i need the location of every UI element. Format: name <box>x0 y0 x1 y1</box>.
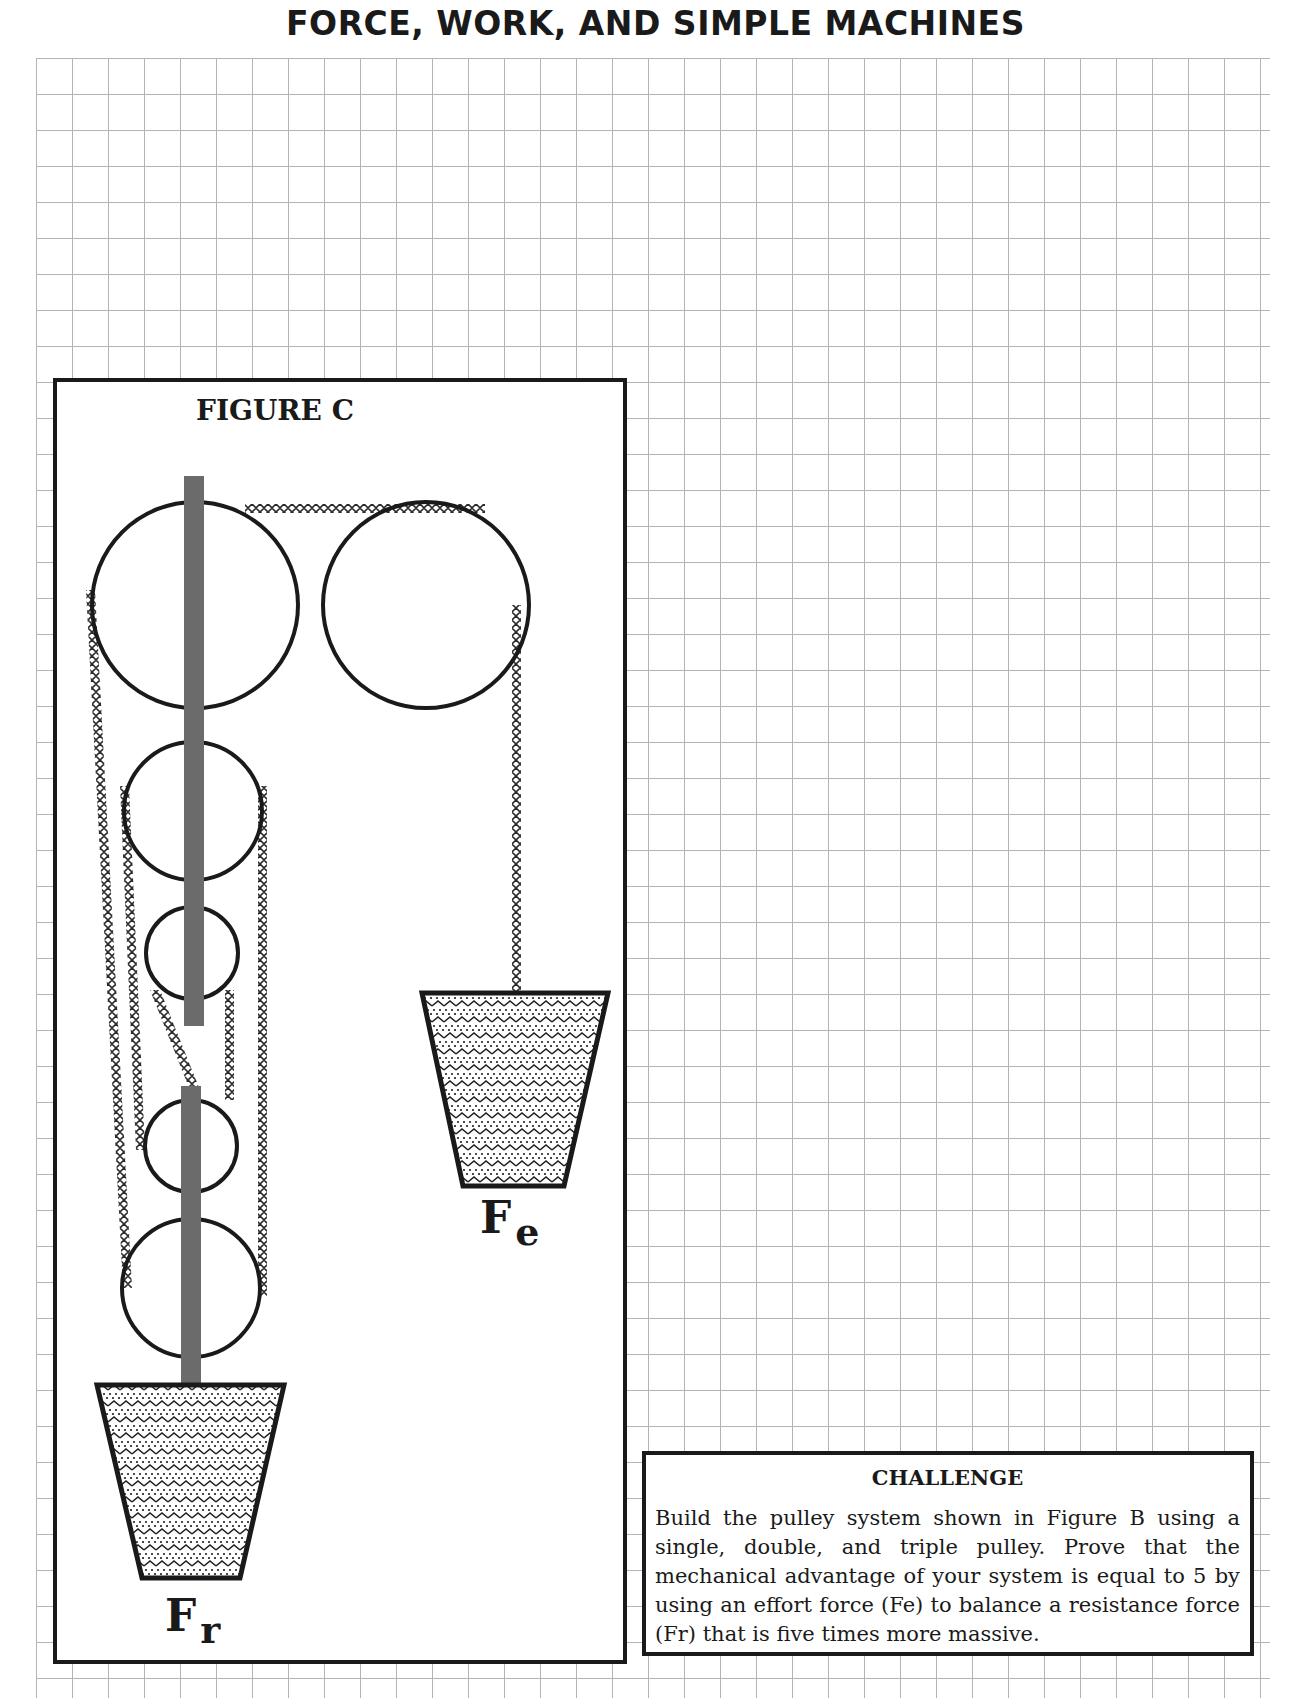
fixed-axle-bar <box>184 476 204 1026</box>
resistance-force-label: Fr <box>165 1590 220 1641</box>
resistance-force-main: F <box>165 1590 196 1641</box>
movable-axle-bar <box>181 1086 201 1386</box>
challenge-title: CHALLENGE <box>655 1465 1240 1490</box>
rope-right-inner <box>225 990 234 1100</box>
pulley-diagram <box>0 0 1311 1698</box>
effort-bucket <box>422 993 608 1186</box>
rope-effort <box>512 605 521 995</box>
effort-force-label: Fe <box>480 1192 539 1243</box>
pulley-large-top-right <box>323 502 529 708</box>
ropes <box>86 504 521 1296</box>
rope-left-outer <box>86 590 132 1288</box>
resistance-bucket <box>97 1385 284 1578</box>
challenge-text: Build the pulley system shown in Figure … <box>655 1504 1240 1649</box>
pulleys <box>92 502 529 1357</box>
effort-force-sub: e <box>515 1209 539 1254</box>
challenge-box: CHALLENGE Build the pulley system shown … <box>642 1451 1254 1656</box>
rope-right-outer <box>258 786 267 1296</box>
effort-force-main: F <box>480 1192 511 1243</box>
resistance-force-sub: r <box>200 1607 220 1652</box>
